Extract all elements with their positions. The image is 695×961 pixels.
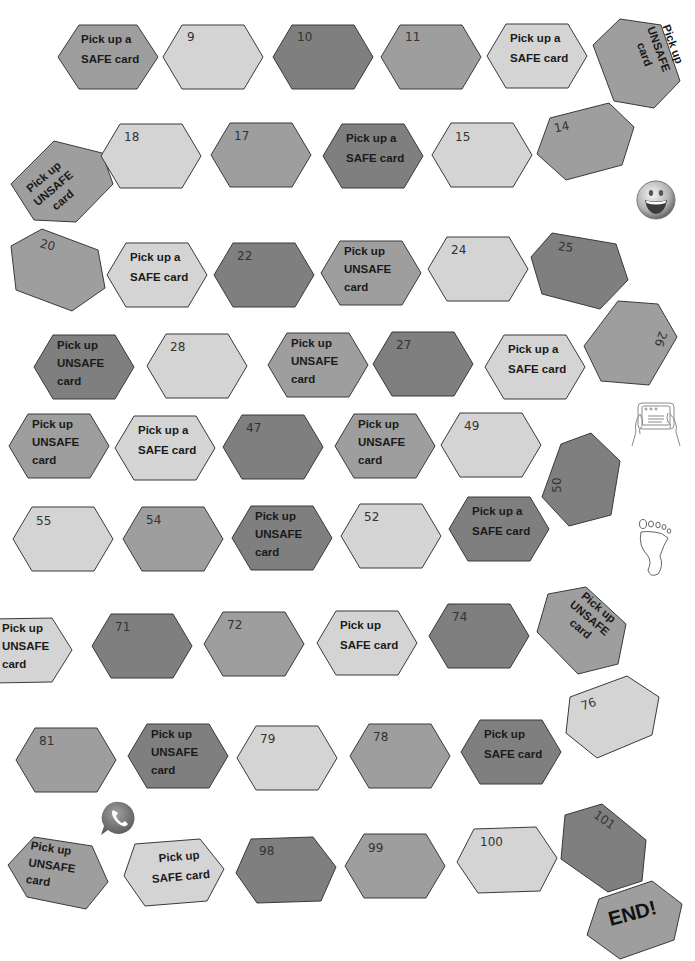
board-space[interactable]: 9 (162, 24, 264, 90)
board-space[interactable]: Pick up SAFE card (123, 838, 225, 908)
board-space[interactable]: Pick up UNSAFE card (231, 505, 333, 571)
space-number: 9 (187, 30, 195, 44)
hexagon-shape (162, 24, 264, 90)
board-space[interactable]: 27 (372, 331, 474, 397)
hexagon-shape (349, 723, 451, 789)
space-label: Pick up SAFE card (143, 843, 216, 889)
hexagon-shape (213, 242, 315, 308)
space-label: Pick up a SAFE card (130, 247, 188, 287)
board-space[interactable]: 52 (340, 503, 442, 569)
board-space[interactable]: 17 (210, 122, 312, 188)
board-space[interactable]: 10 (272, 24, 374, 90)
board-space[interactable]: 55 (12, 506, 114, 572)
space-label: Pick up a SAFE card (138, 420, 196, 460)
board-space[interactable]: 74 (428, 603, 530, 669)
hexagon-shape (12, 506, 114, 572)
board-space[interactable]: 18 (100, 123, 202, 189)
board-space[interactable]: Pick up UNSAFE card (334, 413, 436, 479)
space-number: 47 (246, 421, 261, 435)
space-number: 24 (451, 243, 466, 257)
board-space[interactable]: Pick up a SAFE card (486, 23, 588, 89)
space-number: 71 (115, 620, 130, 634)
space-number: 50 (550, 477, 564, 492)
space-number: 27 (396, 338, 411, 352)
hexagon-shape (427, 236, 529, 302)
board-space[interactable]: Pick up SAFE card (316, 610, 418, 676)
board-space[interactable]: 54 (122, 506, 224, 572)
board-space[interactable]: Pick up UNSAFE card (592, 18, 682, 110)
space-number: 52 (364, 510, 379, 524)
space-label: Pick up UNSAFE card (344, 242, 391, 296)
board-space[interactable]: 50 (541, 432, 623, 528)
board-space[interactable]: Pick up UNSAFE card (8, 413, 110, 479)
space-label: Pick up a SAFE card (508, 339, 566, 379)
board-space[interactable]: 15 (431, 122, 533, 188)
hexagon-shape (210, 122, 312, 188)
board-space[interactable]: 28 (146, 333, 248, 399)
space-number: 55 (36, 514, 51, 528)
tablet-hands-icon (628, 400, 684, 450)
board-space[interactable]: 99 (344, 833, 446, 899)
board-space[interactable]: Pick up a SAFE card (322, 123, 424, 189)
game-board: Pick up a SAFE card 9 10 11 Pick up a SA… (0, 0, 695, 961)
board-space[interactable]: 72 (203, 611, 305, 677)
space-label: Pick up UNSAFE card (291, 334, 338, 388)
board-space[interactable]: Pick up UNSAFE card (7, 836, 109, 910)
board-space[interactable]: Pick up UNSAFE card (127, 723, 229, 789)
hexagon-shape (344, 833, 446, 899)
board-space[interactable]: 100 (456, 826, 558, 894)
board-space[interactable]: Pick up UNSAFE card (33, 334, 135, 400)
hexagon-shape (530, 232, 630, 310)
space-label: Pick up UNSAFE card (151, 725, 198, 779)
space-number: 78 (373, 730, 388, 744)
hexagon-shape (440, 412, 542, 478)
hexagon-shape (100, 123, 202, 189)
board-space[interactable]: 47 (222, 414, 324, 480)
end-space[interactable]: END! (586, 880, 686, 960)
board-space[interactable]: 49 (440, 412, 542, 478)
hexagon-shape (203, 611, 305, 677)
board-space[interactable]: Pick up SAFE card (460, 719, 562, 785)
hexagon-shape (380, 24, 482, 90)
space-label: Pick up SAFE card (340, 615, 398, 655)
board-space[interactable]: Pick up a SAFE card (448, 496, 550, 562)
board-space[interactable]: Pick up a SAFE card (114, 415, 216, 481)
board-space[interactable]: Pick up UNSAFE card (267, 332, 369, 398)
board-space[interactable]: Pick up UNSAFE card (536, 586, 630, 676)
board-space[interactable]: 78 (349, 723, 451, 789)
board-space[interactable]: Pick up a SAFE card (57, 24, 159, 90)
board-space[interactable]: 26 (583, 300, 679, 386)
board-space[interactable]: Pick up UNSAFE card (320, 240, 422, 306)
space-label: Pick up SAFE card (484, 724, 542, 764)
board-space[interactable]: 25 (530, 232, 630, 310)
space-label: Pick up UNSAFE card (358, 415, 405, 469)
board-space[interactable]: Pick up a SAFE card (484, 334, 586, 400)
board-space[interactable]: 20 (10, 228, 106, 312)
hexagon-shape (272, 24, 374, 90)
hexagon-shape (431, 122, 533, 188)
space-label: Pick up UNSAFE card (57, 336, 104, 390)
board-space[interactable]: Pick up UNSAFE card (12, 140, 106, 222)
board-space[interactable]: 11 (380, 24, 482, 90)
space-number: 72 (227, 618, 242, 632)
board-space[interactable]: 76 (565, 675, 661, 759)
board-space[interactable]: Pick up UNSAFE card (0, 617, 80, 683)
board-space[interactable]: 14 (536, 102, 636, 182)
board-space[interactable]: 24 (427, 236, 529, 302)
space-label: Pick up a SAFE card (81, 29, 139, 69)
space-number: 10 (297, 30, 312, 44)
space-label: Pick up a SAFE card (510, 28, 568, 68)
board-space[interactable]: 79 (236, 725, 338, 791)
space-number: 99 (368, 841, 383, 855)
board-space[interactable]: 71 (91, 613, 193, 679)
space-number: 22 (237, 249, 252, 263)
space-label: Pick up a SAFE card (346, 128, 404, 168)
footprint-icon (636, 518, 676, 578)
space-number: 15 (455, 130, 470, 144)
board-space[interactable]: 81 (15, 727, 117, 793)
hexagon-shape (428, 603, 530, 669)
hexagon-shape (565, 675, 661, 759)
board-space[interactable]: 22 (213, 242, 315, 308)
board-space[interactable]: Pick up a SAFE card (106, 242, 208, 308)
board-space[interactable]: 98 (235, 836, 337, 904)
